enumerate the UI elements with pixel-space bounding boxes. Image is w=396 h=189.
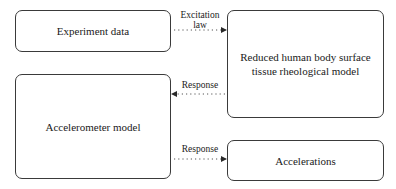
tissue-model-label: Reduced human body surface tissue rheolo…: [234, 50, 377, 78]
response-label-upper-text: Response: [172, 80, 228, 90]
excitation-label-line1: Excitation: [172, 10, 228, 20]
experiment-data-label: Experiment data: [57, 24, 129, 38]
response-edge-label-upper: Response: [172, 80, 228, 90]
response-label-lower-text: Response: [172, 144, 228, 154]
tissue-model-node: Reduced human body surface tissue rheolo…: [227, 10, 384, 118]
accelerations-label: Accelerations: [275, 154, 335, 168]
experiment-data-node: Experiment data: [15, 10, 171, 52]
accelerometer-model-label: Accelerometer model: [46, 120, 141, 134]
excitation-label-line2: law: [172, 20, 228, 30]
response-edge-label-lower: Response: [172, 144, 228, 154]
accelerations-node: Accelerations: [227, 140, 384, 181]
accelerometer-model-node: Accelerometer model: [15, 74, 171, 179]
excitation-law-edge-label: Excitation law: [172, 10, 228, 30]
